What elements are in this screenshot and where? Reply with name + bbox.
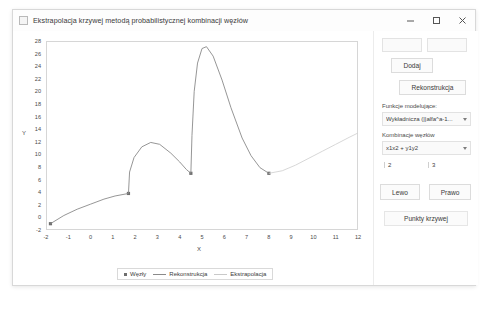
node-combination-label: Kombinacje węzłów [382, 132, 435, 138]
left-button[interactable]: Lewo [380, 184, 420, 200]
screen: Ekstrapolacja krzywej metodą probabilist… [0, 0, 490, 310]
x-tick-label: 4 [173, 234, 187, 240]
maximize-icon[interactable] [423, 10, 449, 31]
model-function-select[interactable]: Wykładnicza (||alfa^a-1... [382, 112, 471, 126]
close-icon[interactable] [449, 10, 475, 31]
right-button[interactable]: Prawo [429, 184, 471, 200]
x-tick-label: -1 [61, 234, 75, 240]
legend-label-nodes: Węzły [130, 271, 146, 277]
legend-solid-line-icon [153, 274, 166, 275]
node-combination-select[interactable]: x1x2 + y1y2 [382, 141, 471, 155]
x-tick-label: 2 [128, 234, 142, 240]
y-tick-label: 22 [25, 76, 41, 82]
x-tick-label: -2 [39, 234, 53, 240]
window-controls [397, 10, 475, 31]
application-window: Ekstrapolacja krzywej metodą probabilist… [12, 9, 476, 286]
series-ekstrapolacja [269, 133, 358, 173]
chevron-down-icon-2 [463, 147, 467, 150]
legend-marker-icon [124, 273, 127, 276]
y-tick-label: 6 [25, 177, 41, 183]
control-panel: Dodaj Rekonstrukcja Funkcje modelujące: … [373, 31, 478, 285]
y-tick-label: 0 [25, 214, 41, 220]
y-tick-label: 10 [25, 151, 41, 157]
coordinate-inputs-row [382, 38, 467, 52]
x-tick-label: 10 [306, 234, 320, 240]
y-tick-label: 4 [25, 189, 41, 195]
curve-points-button[interactable]: Punkty krzywej [384, 211, 468, 226]
window-title: Ekstrapolacja krzywej metodą probabilist… [33, 16, 248, 25]
y-axis-label: Y [22, 130, 26, 136]
x-tick-label: 9 [284, 234, 298, 240]
chart-legend: Węzły Rekonstrukcja Ekstrapolacja [117, 268, 273, 280]
legend-light-line-icon [214, 274, 227, 275]
node-combination-value: x1x2 + y1y2 [386, 145, 460, 151]
x-tick-label: 11 [329, 234, 343, 240]
legend-label-extrapolation: Ekstrapolacja [230, 271, 266, 277]
x-tick-label: 7 [240, 234, 254, 240]
y-tick-label: 2 [25, 202, 41, 208]
model-function-label: Funkcje modelujące: [382, 103, 437, 109]
legend-item-extrapolation: Ekstrapolacja [214, 271, 266, 277]
y-tick-label: -2 [25, 227, 41, 233]
model-function-value: Wykładnicza (||alfa^a-1... [386, 116, 460, 122]
y-tick-label: 18 [25, 101, 41, 107]
legend-label-reconstruction: Rekonstrukcja [169, 271, 207, 277]
x-tick-label: 5 [195, 234, 209, 240]
chevron-down-icon [463, 118, 467, 121]
app-icon [19, 16, 28, 25]
left-count-value[interactable]: 2 [384, 162, 391, 168]
x-tick-label: 1 [106, 234, 120, 240]
x-tick-label: 8 [262, 234, 276, 240]
add-button[interactable]: Dodaj [391, 58, 433, 73]
y-tick-label: 16 [25, 114, 41, 120]
legend-item-reconstruction: Rekonstrukcja [153, 271, 207, 277]
x-coordinate-input[interactable] [382, 38, 422, 52]
y-tick-label: 26 [25, 51, 41, 57]
x-tick-label: 3 [150, 234, 164, 240]
chart-area: -20246810121416182022242628 -2-101234567… [19, 34, 367, 284]
minimize-icon[interactable] [397, 10, 423, 31]
series-rekonstrukcja [50, 47, 268, 224]
y-tick-label: 24 [25, 63, 41, 69]
x-axis-label: X [197, 246, 201, 252]
x-tick-label: 12 [351, 234, 365, 240]
y-tick-label: 20 [25, 88, 41, 94]
legend-item-nodes: Węzły [124, 271, 146, 277]
title-bar: Ekstrapolacja krzywej metodą probabilist… [13, 10, 475, 32]
client-area: -20246810121416182022242628 -2-101234567… [13, 31, 475, 285]
x-tick-label: 0 [84, 234, 98, 240]
y-tick-label: 8 [25, 164, 41, 170]
y-tick-label: 28 [25, 38, 41, 44]
right-count-value[interactable]: 3 [428, 162, 435, 168]
reconstruct-button[interactable]: Rekonstrukcja [399, 80, 466, 95]
chart-canvas [46, 41, 358, 230]
y-tick-label: 14 [25, 126, 41, 132]
y-coordinate-input[interactable] [427, 38, 467, 52]
x-tick-label: 6 [217, 234, 231, 240]
y-tick-label: 12 [25, 139, 41, 145]
